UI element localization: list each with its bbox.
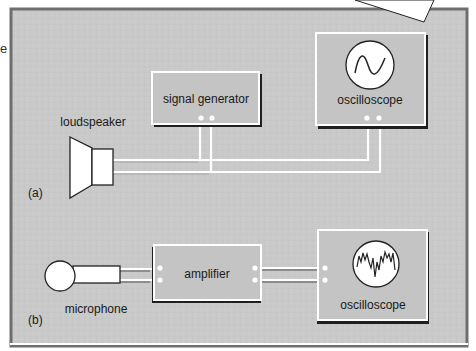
microphone-label: microphone — [65, 302, 128, 316]
diagram-canvas: signal generator oscilloscope loudspeake… — [0, 0, 476, 351]
terminal-icon — [209, 115, 214, 120]
terminal-icon — [322, 265, 327, 270]
amplifier-label: amplifier — [184, 267, 229, 281]
terminal-icon — [157, 277, 162, 282]
signal-generator-label: signal generator — [163, 92, 249, 106]
terminal-icon — [322, 277, 327, 282]
signal-generator: signal generator — [152, 72, 262, 127]
part-b-label: (b) — [28, 313, 43, 327]
part-a-label: (a) — [28, 186, 43, 200]
oscilloscope-a-label: oscilloscope — [337, 93, 403, 107]
terminal-icon — [157, 265, 162, 270]
terminal-icon — [252, 277, 257, 282]
oscilloscope-screen — [353, 241, 399, 287]
oscilloscope-b-label: oscilloscope — [340, 298, 406, 312]
terminal-icon — [364, 115, 369, 120]
oscilloscope-screen — [346, 41, 394, 89]
terminal-icon — [376, 115, 381, 120]
terminal-icon — [252, 265, 257, 270]
loudspeaker-label: loudspeaker — [60, 115, 125, 129]
amplifier: amplifier — [152, 245, 261, 303]
terminal-icon — [198, 115, 203, 120]
oscilloscope-a: oscilloscope — [316, 33, 428, 129]
oscilloscope-b: oscilloscope — [317, 230, 429, 324]
